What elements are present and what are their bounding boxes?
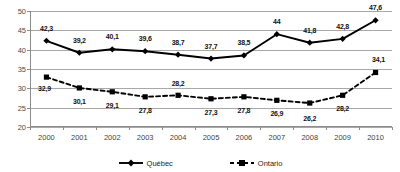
data-label: 38,7 [172,38,185,45]
chart-title-cropped [0,0,400,7]
x-tick-mark [195,127,196,130]
x-axis-label: 2000 [38,133,55,142]
data-point-marker [274,98,279,103]
y-axis-label: 35 [18,65,26,74]
plot-area: 20253035404550 2000200120022003200420052… [30,11,392,127]
x-tick-mark [162,127,163,130]
data-label: 28,2 [336,105,349,112]
chart-legend: QuébecOntario [0,158,400,168]
data-label: 41,8 [303,26,316,33]
y-axis-label: 45 [18,26,26,35]
x-tick-mark [260,127,261,130]
x-tick-mark [96,127,97,130]
x-tick-mark [392,127,393,130]
data-label: 44 [273,18,280,25]
data-point-marker [44,75,49,80]
data-point-marker [175,93,180,98]
data-point-marker [307,40,313,46]
data-point-marker [143,94,148,99]
data-label: 30,1 [73,97,86,104]
x-axis-label: 2005 [203,133,220,142]
data-point-marker [208,96,213,101]
y-axis-label: 30 [18,84,26,93]
data-label: 29,1 [106,101,119,108]
data-label: 39,2 [73,36,86,43]
data-point-marker [175,52,181,58]
data-label: 47,6 [369,4,382,11]
data-point-marker [43,38,49,44]
data-point-marker [307,100,312,105]
data-label: 26,2 [303,115,316,122]
data-point-marker [142,48,148,54]
x-axis-label: 2003 [137,133,154,142]
data-point-marker [109,46,115,52]
x-axis-label: 2006 [236,133,253,142]
data-label: 39,6 [139,35,152,42]
x-axis-label: 2002 [104,133,121,142]
x-tick-mark [293,127,294,130]
data-label: 27,8 [237,106,250,113]
data-point-marker [373,70,378,75]
x-tick-mark [227,127,228,130]
data-label: 27,3 [205,108,218,115]
data-label: 26,9 [270,110,283,117]
data-label: 27,8 [139,106,152,113]
x-axis-label: 2001 [71,133,88,142]
data-point-marker [208,55,214,61]
data-label: 40,1 [106,33,119,40]
x-tick-mark [359,127,360,130]
data-label: 42,3 [40,24,53,31]
data-point-marker [77,85,82,90]
legend-label: Québec [147,159,173,168]
data-point-marker [241,94,246,99]
legend-marker-diamond-icon [118,158,144,168]
x-tick-mark [63,127,64,130]
data-label: 34,1 [372,56,385,63]
y-axis-label: 40 [18,45,26,54]
legend-item-québec[interactable]: Québec [118,158,173,168]
legend-label: Ontario [258,159,283,168]
line-chart: 20253035404550 2000200120022003200420052… [0,0,400,172]
data-label: 28,2 [172,80,185,87]
legend-marker-square-icon [229,158,255,168]
y-axis-label: 20 [18,123,26,132]
x-axis-label: 2010 [367,133,384,142]
x-tick-mark [129,127,130,130]
gridline [30,127,392,128]
x-axis-label: 2004 [170,133,187,142]
x-tick-mark [30,127,31,130]
data-label: 38,5 [237,39,250,46]
legend-item-ontario[interactable]: Ontario [229,158,283,168]
data-point-marker [340,93,345,98]
data-label: 37,7 [205,42,218,49]
y-axis-label: 50 [18,7,26,16]
data-point-marker [110,89,115,94]
x-axis-label: 2009 [334,133,351,142]
x-tick-mark [326,127,327,130]
x-axis-label: 2007 [268,133,285,142]
data-label: 32,9 [38,85,51,92]
data-label: 42,8 [336,22,349,29]
x-axis-label: 2008 [301,133,318,142]
series-line-québec [46,20,375,58]
data-point-marker [76,50,82,56]
y-axis-label: 25 [18,103,26,112]
